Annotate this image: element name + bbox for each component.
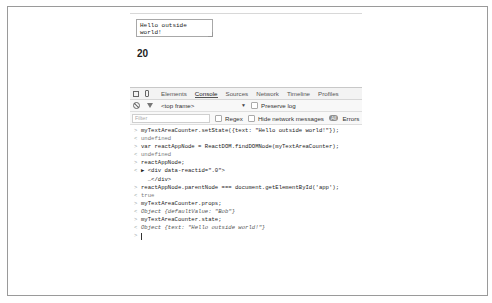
console-line: …</div> [134,176,362,184]
regex-checkbox[interactable]: Regex [215,115,243,122]
input-prompt-icon: > [134,127,141,135]
blank-prompt [134,176,141,184]
console-input-text: myTextAreaCounter.setState({text: "Hello… [141,127,339,135]
tab-console[interactable]: Console [195,90,218,98]
console-line[interactable]: <Object {defaultValue: "Bob"} [134,208,362,216]
checkbox-icon[interactable] [248,115,255,122]
page-divider [130,13,362,14]
device-mode-icon[interactable] [145,90,149,97]
console-line[interactable]: <▶ <div data-reactid=".0"> [134,167,362,175]
console-prompt-line[interactable]: > [134,232,362,240]
tab-elements[interactable]: Elements [161,90,187,97]
preserve-log-label: Preserve log [261,102,296,109]
level-errors-button[interactable]: Errors [342,115,359,122]
text-area-input[interactable]: Hello outside world! [136,19,213,37]
console-line: >myTextAreaCounter.setState({text: "Hell… [134,127,362,135]
console-input-text: reactAppNode; [141,159,185,167]
input-prompt-icon: > [134,232,141,240]
console-input-text: myTextAreaCounter.props; [141,200,222,208]
output-prompt-icon: < [134,192,141,200]
level-all-button[interactable]: All [329,115,339,121]
console-line: <undefined [134,151,362,159]
devtools-panel: Elements Console Sources Network Timelin… [130,87,362,240]
output-prompt-icon: < [134,151,141,159]
input-prompt-icon: > [134,143,141,151]
frame-select-value: <top frame> [161,102,194,109]
console-input-text: var reactAppNode = ReactDOM.findDOMNode(… [141,143,339,151]
console-line: >reactAppNode; [134,159,362,167]
console-output-text: undefined [141,135,171,143]
console-line[interactable]: <Object {text: "Hello outside world!"} [134,224,362,232]
tab-profiles[interactable]: Profiles [318,90,339,97]
input-prompt-icon: > [134,200,141,208]
character-counter: 20 [137,48,148,59]
clear-console-icon[interactable] [133,102,140,109]
tab-timeline[interactable]: Timeline [287,90,310,97]
devtools-tabbar: Elements Console Sources Network Timelin… [130,87,362,100]
console-line: >myTextAreaCounter.state; [134,216,362,224]
checkbox-icon[interactable] [215,115,222,122]
tab-sources[interactable]: Sources [226,90,249,97]
object-preview[interactable]: Object {text: "Hello outside world!"} [141,224,265,232]
output-prompt-icon: < [134,167,141,175]
dom-node-expandable[interactable]: ▶ <div data-reactid=".0"> [141,167,225,175]
preserve-log-checkbox[interactable]: Preserve log [251,102,296,109]
console-input-text: reactAppNode.parentNode === document.get… [141,184,339,192]
input-prompt-icon: > [134,184,141,192]
frame-select[interactable]: <top frame> ▼ [161,102,251,109]
checkbox-icon[interactable] [251,102,258,109]
resize-handle-icon[interactable] [208,32,213,37]
object-preview[interactable]: Object {defaultValue: "Bob"} [141,208,235,216]
console-input-text: myTextAreaCounter.state; [141,216,222,224]
console-filterbar: Filter Regex Hide network messages All E… [130,112,362,125]
hide-network-checkbox[interactable]: Hide network messages [248,115,324,122]
filter-icon[interactable] [147,103,153,108]
chevron-down-icon: ▼ [241,102,246,109]
output-prompt-icon: < [134,224,141,232]
filter-input[interactable]: Filter [132,114,210,123]
console-output-text: undefined [141,151,171,159]
inspect-icon[interactable] [133,91,139,97]
dom-node-close: …</div> [141,176,171,184]
input-prompt-icon: > [134,159,141,167]
input-prompt-icon: > [134,216,141,224]
tab-network[interactable]: Network [256,90,279,97]
console-line: >var reactAppNode = ReactDOM.findDOMNode… [134,143,362,151]
console-line: <undefined [134,135,362,143]
console-output: >myTextAreaCounter.setState({text: "Hell… [130,125,362,240]
console-input-cursor[interactable] [141,233,142,240]
console-toolbar: <top frame> ▼ Preserve log [130,100,362,112]
output-prompt-icon: < [134,135,141,143]
regex-label: Regex [225,115,243,122]
hide-network-label: Hide network messages [258,115,324,122]
console-output-text: true [141,192,154,200]
console-line: >myTextAreaCounter.props; [134,200,362,208]
output-prompt-icon: < [134,208,141,216]
console-line: >reactAppNode.parentNode === document.ge… [134,184,362,192]
console-line: <true [134,192,362,200]
